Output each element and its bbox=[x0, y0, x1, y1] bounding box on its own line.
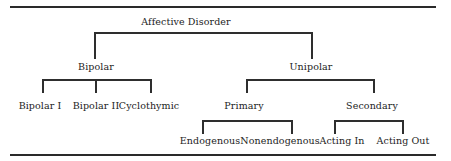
node-acting-out: Acting Out bbox=[377, 135, 430, 147]
connector-primary-to-endogenous bbox=[202, 120, 204, 134]
node-nonendogenous: Nonendogenous bbox=[240, 135, 320, 147]
connector-secondary-to-acting-in bbox=[334, 120, 336, 134]
connector-unipolar-to-secondary bbox=[373, 79, 375, 93]
node-affective-disorder: Affective Disorder bbox=[141, 16, 230, 28]
node-cyclothymic: Cyclothymic bbox=[119, 100, 179, 112]
node-primary: Primary bbox=[224, 100, 263, 112]
connector-unipolar-to-primary bbox=[246, 79, 248, 93]
node-acting-in: Acting In bbox=[319, 135, 364, 147]
connector-root-horizontal bbox=[94, 32, 312, 34]
connector-bipolar-to-bipolar-ii bbox=[95, 79, 97, 93]
connector-primary-to-nonendogenous bbox=[291, 120, 293, 134]
node-bipolar-ii: Bipolar II bbox=[73, 100, 120, 112]
connector-secondary-to-acting-out bbox=[402, 120, 404, 134]
connector-root-to-bipolar bbox=[94, 32, 96, 59]
connector-bipolar-to-cyclothymic bbox=[150, 79, 152, 93]
node-endogenous: Endogenous bbox=[180, 135, 240, 147]
node-bipolar-i: Bipolar I bbox=[19, 100, 62, 112]
connector-primary-horizontal bbox=[202, 120, 292, 122]
connector-bipolar-to-bipolar-i bbox=[42, 79, 44, 93]
connector-bipolar-horizontal bbox=[42, 79, 151, 81]
bottom-rule bbox=[10, 154, 436, 156]
connector-unipolar-horizontal bbox=[246, 79, 374, 81]
connector-secondary-horizontal bbox=[334, 120, 403, 122]
affective-disorder-diagram: Affective Disorder Bipolar Unipolar Bipo… bbox=[0, 0, 451, 161]
node-bipolar: Bipolar bbox=[78, 61, 114, 73]
connector-root-to-unipolar bbox=[311, 32, 313, 59]
top-rule bbox=[10, 6, 436, 8]
node-unipolar: Unipolar bbox=[289, 61, 332, 73]
node-secondary: Secondary bbox=[346, 100, 398, 112]
